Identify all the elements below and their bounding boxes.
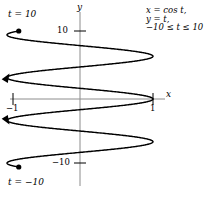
y-tick-label-10: 10 — [57, 26, 68, 35]
x-axis-label: x — [166, 90, 171, 99]
y-tick-label-neg10: −10 — [52, 158, 70, 167]
x-tick-label-1: 1 — [150, 104, 155, 113]
endpoint-label-t-10: t = 10 — [8, 10, 36, 19]
x-tick-label-neg1: −1 — [6, 104, 19, 113]
y-axis-label: y — [77, 3, 82, 12]
equation-line-3: −10 ≤ t ≤ 10 — [146, 23, 203, 32]
direction-arrow-upper — [2, 73, 10, 83]
direction-arrow-lower — [2, 115, 10, 125]
endpoint-label-t-neg10: t = −10 — [8, 178, 44, 187]
equation-annotation: x = cos t, y = t, −10 ≤ t ≤ 10 — [146, 6, 203, 32]
endpoint-dot-t-neg10 — [16, 164, 21, 169]
parametric-curve-figure: x = cos t, y = t, −10 ≤ t ≤ 10 t = 10 t … — [0, 0, 210, 198]
axes-group — [10, 12, 165, 186]
endpoint-dot-t-10 — [16, 28, 21, 33]
